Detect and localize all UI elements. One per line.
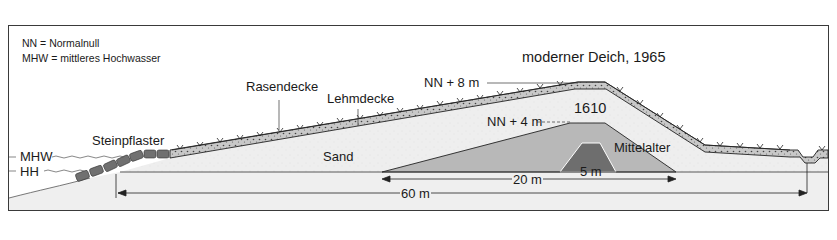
label-60m: 60 m [400, 187, 431, 200]
label-1610: 1610 [574, 101, 606, 116]
label-nn8: NN + 8 m [424, 76, 479, 89]
label-lehmdecke: Lehmdecke [327, 92, 394, 105]
label-sand: Sand [323, 150, 353, 163]
title-modern-dike: moderner Deich, 1965 [522, 50, 665, 65]
label-mhw: MHW [20, 150, 53, 163]
label-steinpflaster: Steinpflaster [92, 134, 164, 147]
label-hh: HH [20, 165, 39, 178]
label-rasendecke: Rasendecke [246, 80, 318, 93]
label-mittelalter: Mittelalter [614, 141, 670, 154]
legend-nn: NN = Normalnull [22, 38, 99, 49]
legend-mhw: MHW = mittleres Hochwasser [22, 53, 161, 64]
label-20m: 20 m [512, 173, 543, 186]
label-5m: 5 m [580, 165, 602, 178]
label-nn4: NN + 4 m [487, 115, 542, 128]
